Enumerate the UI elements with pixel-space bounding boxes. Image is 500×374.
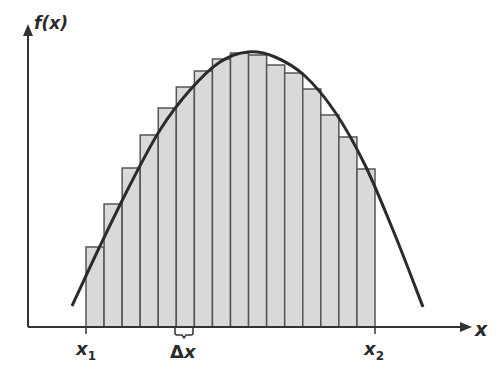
- x1-subscript: 1: [88, 349, 96, 363]
- riemann-rectangle: [104, 204, 122, 327]
- riemann-rectangle: [231, 53, 249, 327]
- riemann-rectangle: [357, 169, 375, 327]
- riemann-rectangle: [176, 87, 194, 327]
- x-axis-arrow-icon: [460, 322, 472, 332]
- riemann-rectangle: [158, 108, 176, 327]
- riemann-rectangle: [339, 137, 357, 327]
- x2-base: x: [364, 338, 376, 359]
- riemann-rectangle: [303, 89, 321, 327]
- riemann-rectangle: [140, 135, 158, 327]
- riemann-rectangle: [249, 55, 267, 327]
- delta-symbol: Δ: [170, 341, 184, 362]
- x-axis-label: x: [475, 318, 487, 340]
- riemann-sum-diagram: [0, 0, 500, 374]
- riemann-rectangle: [194, 71, 212, 327]
- y-axis-arrow-icon: [23, 24, 33, 36]
- y-axis-label: f(x): [34, 13, 68, 33]
- riemann-rectangle: [321, 115, 339, 327]
- rectangles-group: [86, 53, 375, 327]
- riemann-rectangle: [267, 65, 285, 327]
- delta-x-bracket: [175, 328, 193, 338]
- x2-label: x2: [364, 338, 384, 363]
- riemann-rectangle: [285, 73, 303, 327]
- x1-label: x1: [76, 338, 96, 363]
- delta-x-label: Δx: [170, 341, 196, 362]
- riemann-rectangle: [212, 59, 230, 327]
- delta-var: x: [184, 341, 196, 362]
- x2-subscript: 2: [376, 349, 384, 363]
- x1-base: x: [76, 338, 88, 359]
